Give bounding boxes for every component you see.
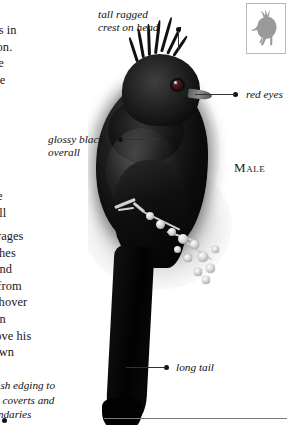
berry [206,264,215,273]
berry [212,246,219,253]
sex-label-rest: ALE [246,164,265,174]
callout-label-glossy-black: glossy black overall [48,133,118,160]
crest-spike [128,37,139,63]
berry [190,240,199,249]
berry [178,234,188,244]
berry [156,220,165,229]
berry [184,254,192,262]
bird-silhouette-thumbnail [246,3,286,54]
berry [202,276,210,284]
berry-cluster [140,210,232,294]
berry [174,246,181,253]
bird-eye-glint [174,81,177,84]
leader-line-long-tail [126,367,166,368]
leader-line-crest [178,31,179,51]
bird-silhouette-icon [247,4,285,53]
berry [194,268,202,276]
sex-label-initial: M [234,160,246,175]
sex-label-male: MALE [234,160,265,176]
berry [146,212,154,220]
body-text-top: at nests in g season. y in the son, the … [0,22,94,221]
callout-label-red-eyes: red eyes [246,88,287,101]
field-guide-page: at nests in g season. y in the son, the … [0,0,287,431]
bottom-caption-text: whitish edging to wing coverts and secon… [0,378,124,422]
leader-line-glossy-black [122,139,160,140]
leader-dot-secondaries [2,418,7,423]
section-divider-rule [104,418,287,419]
body-text-bottom: ps. Forages l. Catches letoe and hrubs f… [0,228,106,361]
leader-line-red-eyes [195,94,235,95]
berry [198,252,208,262]
callout-label-long-tail: long tail [176,361,246,374]
berry [168,228,176,236]
